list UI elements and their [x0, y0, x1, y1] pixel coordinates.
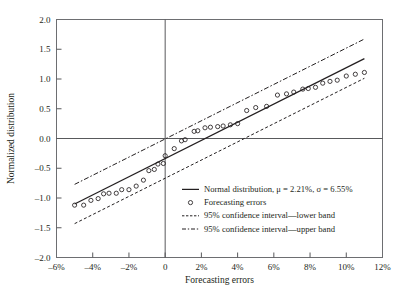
forecasting-errors-chart: –6%–4%–2%02%4%6%8%10%12% –2.0–1.5–1.0–0.… [0, 0, 405, 296]
x-tick-label: –6% [47, 262, 65, 272]
y-tick-label: 0.0 [39, 134, 51, 144]
y-tick-label: 1.5 [39, 44, 51, 54]
x-axis-title: Forecasting errors [185, 275, 254, 285]
legend-entry-label: Normal distribution, μ = 2.21%, σ = 6.55… [204, 184, 353, 194]
x-tick-label: 12% [374, 262, 391, 272]
x-tick-label: 8% [304, 262, 317, 272]
legend-entry-label: 95% confidence interval—lower band [204, 210, 336, 220]
y-tick-label: 1.0 [39, 74, 51, 84]
y-tick-label: –1.5 [34, 223, 51, 233]
legend-entry-label: Forecasting errors [204, 197, 267, 207]
x-tick-label: 6% [268, 262, 281, 272]
chart-background [0, 0, 405, 296]
chart-canvas: –6%–4%–2%02%4%6%8%10%12% –2.0–1.5–1.0–0.… [0, 0, 405, 296]
x-tick-label: –2% [120, 262, 138, 272]
y-tick-label: 2.0 [39, 15, 51, 25]
y-axis-title: Normalized distribution [6, 93, 16, 184]
x-tick-label: 2% [195, 262, 208, 272]
y-tick-label: –2.0 [34, 253, 51, 263]
legend-entry-label: 95% confidence interval—upper band [204, 224, 336, 234]
x-tick-label: 0 [163, 262, 168, 272]
y-tick-label: 0.5 [39, 104, 51, 114]
y-tick-label: –0.5 [34, 163, 51, 173]
y-tick-label: –1.0 [34, 193, 51, 203]
x-tick-label: 4% [232, 262, 245, 272]
x-tick-label: 10% [338, 262, 355, 272]
x-tick-label: –4% [83, 262, 101, 272]
